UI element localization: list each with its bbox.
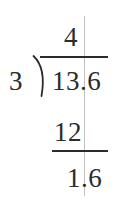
quotient-value: 4 bbox=[64, 24, 78, 51]
division-bracket-icon bbox=[32, 54, 48, 98]
division-vinculum-line bbox=[40, 56, 108, 58]
long-division-worksheet: 4 3 13.6 12 1.6 bbox=[0, 0, 122, 216]
dividend-value: 13.6 bbox=[52, 68, 101, 95]
subtraction-rule-line bbox=[52, 150, 108, 152]
remainder-value: 1.6 bbox=[67, 165, 102, 192]
subtrahend-value: 12 bbox=[54, 119, 82, 146]
divisor-value: 3 bbox=[9, 68, 23, 95]
